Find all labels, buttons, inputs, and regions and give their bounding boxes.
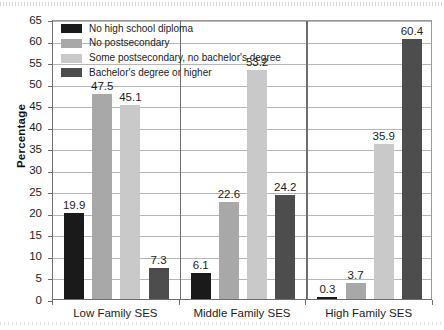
legend-label: No postsecondary bbox=[89, 38, 170, 48]
bar-value-label: 22.6 bbox=[207, 189, 251, 201]
y-axis-tick-label: 0 bbox=[12, 295, 42, 307]
y-axis-tick-label: 55 bbox=[12, 58, 42, 70]
bar-value-label: 6.1 bbox=[179, 260, 223, 272]
legend: No high school diplomaNo postsecondarySo… bbox=[61, 23, 251, 82]
y-axis-tick-mark bbox=[48, 129, 53, 130]
y-axis-tick-mark bbox=[48, 236, 53, 237]
bar[interactable] bbox=[219, 202, 239, 299]
legend-label: No high school diploma bbox=[89, 24, 193, 34]
bar[interactable] bbox=[374, 144, 394, 299]
legend-item[interactable]: Some postsecondary, no bachelor's degree bbox=[61, 52, 251, 64]
x-axis-tick-mark bbox=[432, 300, 433, 305]
y-axis-tick-label: 60 bbox=[12, 36, 42, 48]
y-axis-tick-label: 25 bbox=[12, 187, 42, 199]
x-axis-tick-mark bbox=[179, 300, 180, 305]
y-axis-tick-label: 65 bbox=[12, 15, 42, 27]
y-axis-tick-label: 5 bbox=[12, 273, 42, 285]
bar[interactable] bbox=[191, 273, 211, 299]
bar-chart: Percentage 05101520253035404550556065 19… bbox=[0, 0, 444, 330]
y-axis-tick-mark bbox=[48, 43, 53, 44]
y-axis-tick-mark bbox=[48, 258, 53, 259]
legend-swatch bbox=[61, 68, 82, 77]
y-axis-tick-label: 50 bbox=[12, 79, 42, 91]
bar[interactable] bbox=[149, 268, 169, 299]
gridline bbox=[53, 21, 431, 22]
y-axis-tick-mark bbox=[48, 215, 53, 216]
legend-swatch bbox=[61, 24, 82, 33]
bar-value-label: 60.4 bbox=[390, 26, 434, 38]
y-axis-tick-label: 35 bbox=[12, 144, 42, 156]
legend-swatch bbox=[61, 39, 82, 48]
y-axis-tick-mark bbox=[48, 150, 53, 151]
group-separator bbox=[306, 21, 307, 299]
bar[interactable] bbox=[64, 213, 84, 299]
y-axis-tick-mark bbox=[48, 64, 53, 65]
bar-value-label: 19.9 bbox=[52, 200, 96, 212]
y-axis-tick-label: 10 bbox=[12, 251, 42, 263]
bar[interactable] bbox=[346, 283, 366, 299]
bar-value-label: 45.1 bbox=[108, 92, 152, 104]
bar[interactable] bbox=[275, 195, 295, 299]
y-axis-tick-mark bbox=[48, 107, 53, 108]
y-axis-tick-mark bbox=[48, 193, 53, 194]
bar[interactable] bbox=[402, 39, 422, 299]
legend-item[interactable]: No high school diploma bbox=[61, 23, 251, 35]
y-axis-tick-mark bbox=[48, 86, 53, 87]
bar-value-label: 0.3 bbox=[305, 284, 349, 296]
category-label: Low Family SES bbox=[52, 307, 179, 319]
bar[interactable] bbox=[120, 105, 140, 299]
bar-value-label: 24.2 bbox=[263, 182, 307, 194]
y-axis-tick-label: 30 bbox=[12, 165, 42, 177]
y-axis-tick-label: 20 bbox=[12, 208, 42, 220]
bar-value-label: 7.3 bbox=[137, 255, 181, 267]
y-axis-tick-mark bbox=[48, 172, 53, 173]
bar-value-label: 3.7 bbox=[334, 270, 378, 282]
legend-item[interactable]: Bachelor's degree or higher bbox=[61, 67, 251, 79]
x-axis-tick-mark bbox=[305, 300, 306, 305]
legend-label: Bachelor's degree or higher bbox=[89, 68, 212, 78]
legend-swatch bbox=[61, 54, 82, 63]
y-axis-tick-label: 45 bbox=[12, 101, 42, 113]
y-axis-tick-label: 40 bbox=[12, 122, 42, 134]
legend-label: Some postsecondary, no bachelor's degree bbox=[89, 53, 281, 63]
bar-value-label: 35.9 bbox=[362, 131, 406, 143]
y-axis-tick-mark bbox=[48, 21, 53, 22]
legend-item[interactable]: No postsecondary bbox=[61, 38, 251, 50]
category-label: High Family SES bbox=[305, 307, 432, 319]
category-label: Middle Family SES bbox=[179, 307, 306, 319]
x-axis-tick-mark bbox=[52, 300, 53, 305]
y-axis-tick-label: 15 bbox=[12, 230, 42, 242]
bar[interactable] bbox=[92, 94, 112, 299]
y-axis-tick-mark bbox=[48, 279, 53, 280]
bar[interactable] bbox=[317, 297, 337, 299]
